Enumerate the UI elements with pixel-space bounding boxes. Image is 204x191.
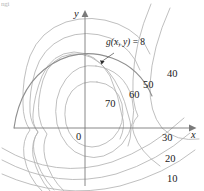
contour-group-loops bbox=[33, 52, 134, 191]
constraint-label-eq: = 8 bbox=[130, 37, 145, 47]
contour-plot-figure: ngi bbox=[0, 0, 204, 191]
level-label-70: 70 bbox=[105, 99, 116, 110]
origin-label: 0 bbox=[76, 132, 81, 143]
contour-level-inner-ring bbox=[56, 66, 134, 158]
contour-level-30 bbox=[2, 118, 184, 168]
y-axis-label: y bbox=[74, 9, 79, 20]
level-label-10: 10 bbox=[167, 174, 178, 185]
constraint-label: g(x, y) = 8 bbox=[106, 38, 145, 48]
level-label-50: 50 bbox=[143, 80, 154, 91]
level-label-60: 60 bbox=[129, 90, 140, 101]
level-label-20: 20 bbox=[165, 154, 176, 165]
level-label-30: 30 bbox=[162, 133, 173, 144]
level-label-40: 40 bbox=[167, 69, 178, 80]
x-axis-label: x bbox=[191, 130, 196, 141]
contour-level-innermost bbox=[65, 82, 123, 147]
contour-level-60 bbox=[33, 52, 124, 190]
constraint-label-args: (x, y) bbox=[111, 37, 131, 47]
y-axis-arrowhead bbox=[82, 10, 89, 17]
